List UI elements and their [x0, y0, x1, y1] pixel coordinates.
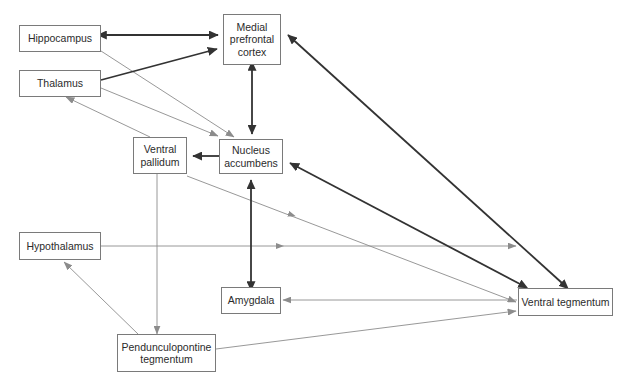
node-pendunculopontine-tegmentum[interactable]: Pendunculopontine tegmentum — [117, 334, 216, 372]
node-ventral-pallidum[interactable]: Ventral pallidum — [133, 137, 187, 174]
node-thalamus[interactable]: Thalamus — [19, 70, 101, 97]
edge-ppt-hypothalamus — [64, 262, 138, 334]
brain-circuit-diagram: Hippocampus Thalamus Medial prefrontal c… — [0, 0, 627, 381]
edges-layer — [0, 0, 627, 381]
node-medial-prefrontal-cortex[interactable]: Medial prefrontal cortex — [223, 14, 281, 65]
edge-ppt-vta — [216, 311, 516, 349]
node-hippocampus[interactable]: Hippocampus — [19, 25, 101, 52]
node-ventral-tegmentum[interactable]: Ventral tegmentum — [518, 288, 613, 316]
edge-ventral-pallidum-vta-midarrow — [280, 211, 292, 215]
edge-hippocampus-nacc — [101, 51, 234, 137]
thin-edges — [64, 51, 517, 349]
edge-thalamus-mpfc — [101, 49, 217, 80]
node-nucleus-accumbens[interactable]: Nucleus accumbens — [219, 139, 283, 174]
edge-hypothalamus-vta — [101, 246, 516, 298]
edge-thalamus-nacc — [101, 88, 218, 136]
node-amygdala[interactable]: Amygdala — [221, 287, 281, 314]
edge-vta-nacc — [290, 163, 520, 284]
node-hypothalamus[interactable]: Hypothalamus — [19, 232, 101, 260]
